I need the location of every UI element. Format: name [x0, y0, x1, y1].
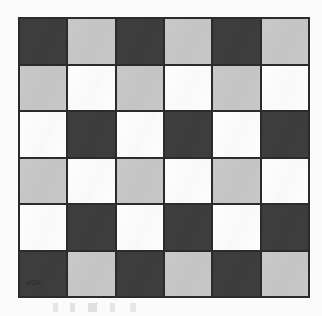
- board-cell-r3-c3: [117, 112, 163, 157]
- board-cell-r5-c2: [68, 205, 114, 250]
- board-cell-r6-c2: [68, 252, 114, 297]
- board-cell-r2-c3: [117, 66, 163, 111]
- board-cell-r5-c5: [213, 205, 259, 250]
- board-cell-r4-c5: [213, 159, 259, 204]
- scan-smudge-icon: [26, 279, 47, 285]
- board-cell-r2-c6: [262, 66, 308, 111]
- board-cell-r6-c3: [117, 252, 163, 297]
- board-cell-r6-c4: [165, 252, 211, 297]
- board-cell-r3-c6: [262, 112, 308, 157]
- board-cell-r4-c4: [165, 159, 211, 204]
- checkerboard-figure: [18, 17, 310, 298]
- board-cell-r1-c3: [117, 19, 163, 64]
- board-cell-r2-c2: [68, 66, 114, 111]
- board-cell-r5-c1: [20, 205, 66, 250]
- board-cell-r2-c4: [165, 66, 211, 111]
- board-cell-r1-c4: [165, 19, 211, 64]
- caption-smudge: [46, 303, 156, 312]
- board-cell-r6-c5: [213, 252, 259, 297]
- board-cell-r5-c6: [262, 205, 308, 250]
- board-cell-r1-c6: [262, 19, 308, 64]
- board-cell-r4-c1: [20, 159, 66, 204]
- board-cell-r2-c5: [213, 66, 259, 111]
- board-cell-r6-c1: [20, 252, 66, 297]
- board-cell-r4-c3: [117, 159, 163, 204]
- checkerboard-grid: [18, 17, 310, 298]
- board-cell-r3-c5: [213, 112, 259, 157]
- board-cell-r2-c1: [20, 66, 66, 111]
- board-cell-r1-c5: [213, 19, 259, 64]
- board-cell-r1-c2: [68, 19, 114, 64]
- board-cell-r4-c2: [68, 159, 114, 204]
- board-cell-r3-c2: [68, 112, 114, 157]
- board-cell-r4-c6: [262, 159, 308, 204]
- board-cell-r5-c3: [117, 205, 163, 250]
- board-cell-r5-c4: [165, 205, 211, 250]
- board-cell-r3-c1: [20, 112, 66, 157]
- board-cell-r1-c1: [20, 19, 66, 64]
- board-cell-r3-c4: [165, 112, 211, 157]
- board-cell-r6-c6: [262, 252, 308, 297]
